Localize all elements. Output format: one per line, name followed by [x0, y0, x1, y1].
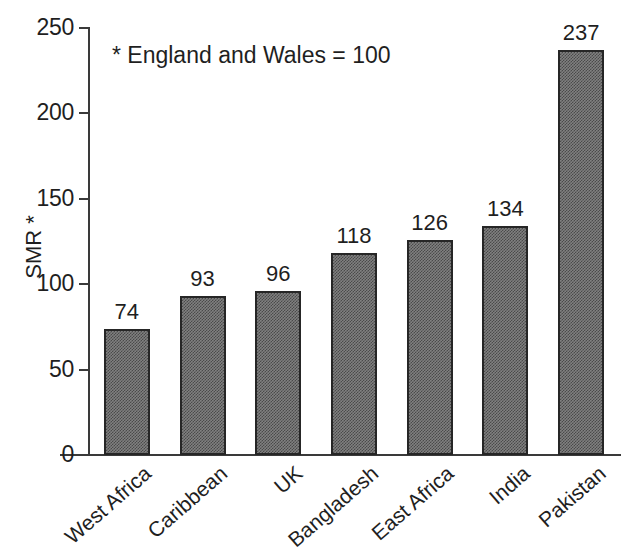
y-tick-mark	[79, 27, 88, 29]
y-tick-label: 50	[49, 358, 74, 381]
bar[interactable]	[104, 329, 150, 455]
y-tick-label-wrap: 100	[0, 272, 74, 295]
bar-slot: 96	[240, 28, 316, 455]
y-tick-label: 250	[37, 16, 74, 39]
x-category-label: East Africa	[368, 462, 458, 544]
bars-container: 749396118126134237	[89, 28, 619, 455]
bar-slot: 134	[468, 28, 544, 455]
y-tick-label: 0	[62, 443, 75, 466]
y-tick-mark	[79, 112, 88, 114]
y-tick-label-wrap: 50	[0, 358, 74, 381]
y-tick-label: 100	[37, 272, 74, 295]
bar-value-label: 126	[392, 212, 468, 234]
y-tick-label-wrap: 200	[0, 101, 74, 124]
bar-slot: 93	[165, 28, 241, 455]
y-tick-mark	[79, 454, 88, 456]
bar-value-label: 74	[89, 301, 165, 323]
bar-slot: 237	[543, 28, 619, 455]
bar-value-label: 118	[316, 225, 392, 247]
x-category-label: India	[485, 462, 533, 508]
y-tick-mark	[79, 198, 88, 200]
x-category-label: West Africa	[61, 462, 155, 547]
bar[interactable]	[482, 226, 528, 455]
bar[interactable]	[558, 50, 604, 455]
y-tick-mark	[79, 369, 88, 371]
bar[interactable]	[180, 296, 226, 455]
x-category-label: Pakistan	[534, 462, 609, 531]
bar-slot: 126	[392, 28, 468, 455]
y-tick-label-wrap: 150	[0, 187, 74, 210]
bar-value-label: 96	[240, 263, 316, 285]
bar-slot: 74	[89, 28, 165, 455]
y-tick-label-wrap: 250	[0, 16, 74, 39]
plot-area: 749396118126134237	[89, 28, 619, 455]
bar-chart: * England and Wales = 100 SMR * 05010015…	[0, 0, 633, 559]
x-category-label: Caribbean	[143, 462, 230, 541]
bar[interactable]	[255, 291, 301, 455]
y-tick-mark	[79, 283, 88, 285]
y-tick-label-wrap: 0	[0, 443, 74, 466]
y-tick-label: 150	[37, 187, 74, 210]
bar-value-label: 93	[165, 268, 241, 290]
bar[interactable]	[407, 240, 453, 455]
x-category-label: UK	[270, 462, 306, 497]
bar-slot: 118	[316, 28, 392, 455]
bar-value-label: 134	[468, 198, 544, 220]
bar[interactable]	[331, 253, 377, 455]
bar-value-label: 237	[543, 22, 619, 44]
y-tick-label: 200	[37, 101, 74, 124]
